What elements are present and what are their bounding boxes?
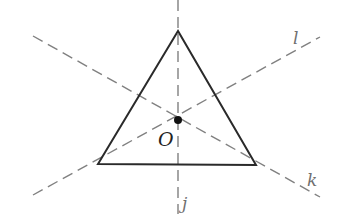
line-l bbox=[33, 37, 320, 195]
label-k: k bbox=[307, 170, 317, 190]
label-j: j bbox=[178, 193, 188, 213]
center-point-O bbox=[174, 116, 182, 124]
label-l: l bbox=[293, 28, 298, 48]
label-O: O bbox=[158, 128, 174, 150]
triangle bbox=[98, 31, 256, 165]
symmetry-diagram: O l k j bbox=[0, 0, 341, 222]
